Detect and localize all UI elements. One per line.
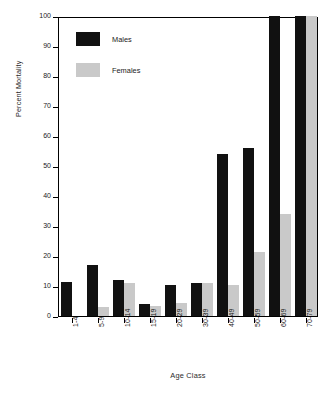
y-tick-label: 60 bbox=[43, 132, 51, 139]
x-tick-label: 5-9 bbox=[98, 317, 105, 327]
x-tick-label: 70-79 bbox=[306, 309, 313, 327]
x-tick-label: 60-69 bbox=[280, 309, 287, 327]
x-tick-label: 50-59 bbox=[254, 309, 261, 327]
legend-item-male: Males bbox=[76, 32, 140, 46]
x-tick-label: 20-29 bbox=[176, 309, 183, 327]
x-tick-label: 15-19 bbox=[150, 309, 157, 327]
bar-males-40-49 bbox=[217, 154, 228, 316]
x-axis-title: Age Class bbox=[58, 371, 318, 380]
y-tick-label: 20 bbox=[43, 252, 51, 259]
legend-label-male: Males bbox=[112, 35, 132, 44]
legend-swatch-male bbox=[76, 32, 100, 46]
y-tick-label: 100 bbox=[39, 12, 51, 19]
bar-males-10-14 bbox=[113, 280, 124, 316]
bar-males-15-19 bbox=[139, 304, 150, 316]
bar-females-60-69 bbox=[280, 214, 291, 316]
x-tick-label: 40-49 bbox=[228, 309, 235, 327]
legend-item-female: Females bbox=[76, 63, 140, 77]
y-tick-label: 50 bbox=[43, 162, 51, 169]
bar-females-70-79 bbox=[306, 16, 317, 316]
y-tick-label: 70 bbox=[43, 102, 51, 109]
y-tick-label: 10 bbox=[43, 282, 51, 289]
bar-males-5-9 bbox=[87, 265, 98, 316]
y-axis-title: Percent Mortality bbox=[14, 0, 23, 117]
bar-males-30-39 bbox=[191, 283, 202, 316]
y-tick-label: 0 bbox=[47, 312, 51, 319]
y-tick-label: 30 bbox=[43, 222, 51, 229]
bar-males-50-59 bbox=[243, 148, 254, 316]
y-tick-label: 40 bbox=[43, 192, 51, 199]
bar-females-5-9 bbox=[98, 307, 109, 316]
bar-females-50-59 bbox=[254, 252, 265, 317]
y-tick-label: 90 bbox=[43, 42, 51, 49]
y-tick-label: 80 bbox=[43, 72, 51, 79]
bar-males-70-79 bbox=[295, 16, 306, 316]
bar-males-20-29 bbox=[165, 285, 176, 317]
bar-chart-figure: Percent Mortality 0102030405060708090100… bbox=[0, 0, 332, 398]
x-tick-label: 10-14 bbox=[124, 309, 131, 327]
x-tick-label: 1-4 bbox=[72, 317, 79, 327]
x-tick-label: 30-39 bbox=[202, 309, 209, 327]
chart-legend: MalesFemales bbox=[76, 32, 140, 94]
bar-males-1-4 bbox=[61, 282, 72, 317]
legend-label-female: Females bbox=[112, 66, 140, 75]
bar-males-60-69 bbox=[269, 16, 280, 316]
legend-swatch-female bbox=[76, 63, 100, 77]
